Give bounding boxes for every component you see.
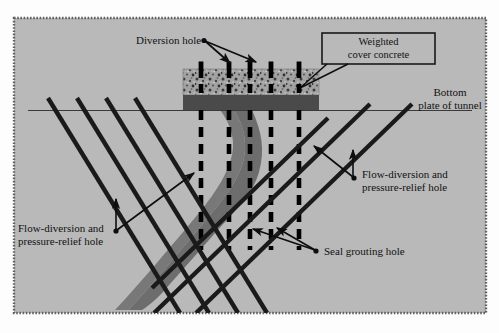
bottom-plate-label-line2: plate of tunnel <box>418 99 482 111</box>
diversion-hole-stub <box>269 62 274 70</box>
tunnel-repair-diagram: Diversion hole Weighted cover concrete B… <box>0 0 499 333</box>
seal-grouting-hole-label: Seal grouting hole <box>324 245 405 257</box>
diversion-hole-label: Diversion hole <box>136 34 201 46</box>
tunnel-bottom-plate-slab <box>183 95 319 110</box>
weighted-cover-concrete-label-line1: Weighted <box>359 36 400 47</box>
diversion-hole-stub <box>297 62 302 70</box>
bottom-plate-label-line1: Bottom <box>433 86 466 98</box>
figure-root: Diversion hole Weighted cover concrete B… <box>0 0 499 333</box>
flow-diversion-right-label-line2: pressure-relief hole <box>362 181 447 193</box>
diversion-hole-stub <box>248 62 253 70</box>
weighted-cover-concrete-label-line2: cover concrete <box>348 49 410 60</box>
flow-diversion-right-label-line1: Flow-diversion and <box>362 168 448 180</box>
flow-diversion-left-label-line2: pressure-relief hole <box>18 235 103 247</box>
flow-diversion-left-label-line1: Flow-diversion and <box>18 222 104 234</box>
diversion-hole-stub <box>199 62 204 70</box>
